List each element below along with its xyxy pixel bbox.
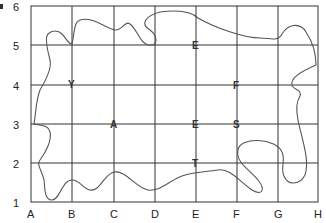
row-label-5: 5 bbox=[13, 40, 19, 52]
col-label-h: H bbox=[314, 208, 322, 220]
col-label-e: E bbox=[192, 208, 199, 220]
col-label-b: B bbox=[68, 208, 75, 220]
marker-a-c3: A bbox=[110, 119, 117, 130]
col-label-g: G bbox=[274, 208, 283, 220]
col-label-d: D bbox=[151, 208, 159, 220]
col-label-f: F bbox=[233, 208, 240, 220]
row-label-4: 4 bbox=[13, 80, 19, 92]
marker-f-4: F bbox=[233, 80, 239, 91]
grid-map: 6 5 4 3 2 1 A B C D E F G H E F A E S T … bbox=[0, 0, 326, 223]
marker-s-3: S bbox=[233, 119, 240, 130]
marker-y-b4: Y bbox=[68, 79, 75, 90]
col-label-c: C bbox=[110, 208, 118, 220]
row-label-3: 3 bbox=[13, 119, 19, 131]
marker-t-2: T bbox=[192, 158, 198, 169]
marker-e-3: E bbox=[192, 119, 199, 130]
island-outline bbox=[34, 11, 316, 200]
col-label-a: A bbox=[27, 208, 35, 220]
marker-e-5: E bbox=[192, 40, 199, 51]
corner-mark bbox=[0, 4, 3, 9]
row-label-2: 2 bbox=[13, 158, 19, 170]
row-label-1: 1 bbox=[13, 197, 19, 209]
row-label-6: 6 bbox=[13, 1, 19, 13]
